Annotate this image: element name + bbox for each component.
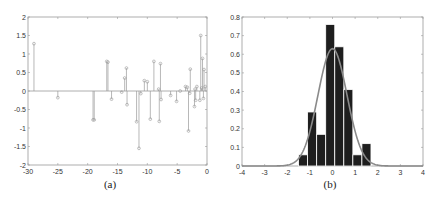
x-tick-label: -15	[112, 168, 122, 175]
x-tick-label: 3	[398, 169, 402, 176]
y-tick-label: 0.2	[230, 125, 240, 132]
x-tick-label: -2	[284, 169, 290, 176]
x-tick-label: 0	[205, 168, 209, 175]
x-tick-label: -20	[83, 168, 93, 175]
x-tick-label: -5	[174, 168, 180, 175]
y-tick-label: -1.5	[14, 143, 26, 150]
y-tick-label: -1	[20, 125, 26, 132]
x-tick-label: -3	[262, 169, 268, 176]
y-tick-label: 2	[22, 14, 26, 21]
histogram-plot: -4-3-2-10123400.10.20.30.40.50.60.70.8	[220, 0, 440, 178]
x-tick-label: -10	[142, 168, 152, 175]
x-tick-label: -30	[23, 168, 33, 175]
y-tick-label: 0.7	[230, 32, 240, 39]
y-tick-label: 1.5	[16, 32, 26, 39]
y-tick-label: 0.4	[230, 88, 240, 95]
histogram-bar	[326, 24, 335, 166]
y-tick-label: 0.1	[230, 144, 240, 151]
y-tick-label: -2	[20, 162, 26, 169]
y-tick-label: 0.6	[230, 51, 240, 58]
y-tick-label: 0	[236, 163, 240, 170]
x-tick-label: -1	[307, 169, 313, 176]
histogram-bar	[317, 134, 326, 166]
x-tick-label: 4	[421, 169, 425, 176]
stem-plot: -30-25-20-15-10-50-2-1.5-1-0.500.511.52	[0, 0, 220, 178]
panel-a-stem-plot: -30-25-20-15-10-50-2-1.5-1-0.500.511.52 …	[0, 0, 220, 203]
x-tick-label: -4	[239, 169, 245, 176]
panel-b-histogram: -4-3-2-10123400.10.20.30.40.50.60.70.8 (…	[220, 0, 440, 203]
x-tick-label: 0	[331, 169, 335, 176]
y-tick-label: 0	[22, 88, 26, 95]
caption-a: (a)	[0, 178, 220, 190]
caption-b: (b)	[220, 178, 440, 190]
y-tick-label: 0.3	[230, 107, 240, 114]
y-tick-label: 0.5	[16, 69, 26, 76]
x-tick-label: 1	[353, 169, 357, 176]
y-tick-label: 0.5	[230, 69, 240, 76]
x-tick-label: 2	[376, 169, 380, 176]
y-tick-label: 0.8	[230, 14, 240, 21]
histogram-bar	[335, 47, 344, 166]
histogram-bar	[353, 155, 362, 166]
y-tick-label: -0.5	[14, 106, 26, 113]
x-tick-label: -25	[53, 168, 63, 175]
y-tick-label: 1	[22, 51, 26, 58]
